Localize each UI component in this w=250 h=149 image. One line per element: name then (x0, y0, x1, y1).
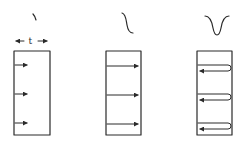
slab-rectangle (14, 51, 50, 135)
pulse-shape-tick-icon (33, 14, 36, 20)
slab-rectangle (197, 51, 232, 135)
arrow-reflect (198, 94, 231, 100)
thickness-label: t (29, 36, 33, 46)
arrow-reflect (198, 65, 231, 71)
slab-rectangle (106, 51, 141, 135)
panel-1: t (14, 14, 50, 135)
diagram-canvas: t (0, 0, 250, 149)
arrow-reflect (198, 123, 231, 129)
pulse-shape-s-curve-icon (122, 13, 133, 33)
thickness-indicator: t (16, 36, 47, 46)
panel-3 (197, 16, 232, 135)
pulse-shape-v-dip-icon (205, 16, 229, 35)
panel-2 (106, 13, 141, 135)
